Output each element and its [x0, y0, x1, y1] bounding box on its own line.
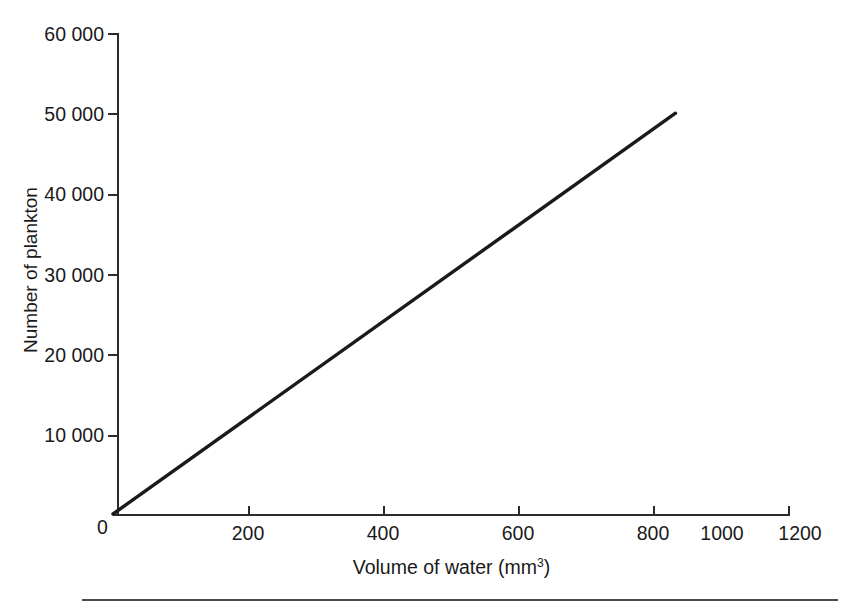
x-tick-mark-600 — [518, 506, 520, 515]
y-tick-mark-30000 — [108, 274, 117, 276]
x-tick-mark-400 — [383, 506, 385, 515]
x-tick-mark-200 — [248, 506, 250, 515]
y-tick-label-40000: 40 000 — [18, 184, 104, 204]
y-tick-label-60000: 60 000 — [18, 24, 104, 44]
y-tick-mark-40000 — [108, 194, 117, 196]
x-axis-line — [113, 514, 790, 516]
x-tick-label-1000: 1000 — [677, 522, 767, 544]
x-axis-title: Volume of water (mm3) — [113, 556, 790, 579]
y-tick-mark-20000 — [108, 354, 117, 356]
y-tick-mark-50000 — [108, 113, 117, 115]
bottom-divider-rule — [82, 599, 838, 601]
y-tick-label-20000: 20 000 — [18, 345, 104, 365]
y-tick-mark-60000 — [108, 33, 117, 35]
x-axis-title-base: Volume of water (mm — [353, 556, 537, 578]
y-axis-tick-labels: 60 000 50 000 40 000 30 000 20 000 10 00… — [14, 0, 104, 615]
x-axis-title-close: ) — [544, 556, 551, 578]
y-tick-mark-10000 — [108, 435, 117, 437]
y-tick-label-50000: 50 000 — [18, 104, 104, 124]
x-axis-title-superscript: 3 — [537, 556, 544, 570]
x-tick-mark-1200 — [788, 506, 790, 515]
x-tick-label-200: 200 — [203, 522, 293, 544]
y-tick-label-10000: 10 000 — [18, 425, 104, 445]
plankton-volume-line-chart: Number of plankton 60 000 50 000 40 000 … — [0, 0, 860, 615]
x-tick-label-400: 400 — [338, 522, 428, 544]
y-axis-line — [117, 33, 119, 516]
x-tick-label-0: 0 — [97, 516, 108, 538]
x-tick-label-600: 600 — [473, 522, 563, 544]
x-tick-mark-800 — [653, 506, 655, 515]
data-line-plankton — [113, 113, 676, 514]
x-tick-label-1200: 1200 — [755, 522, 845, 544]
y-tick-label-30000: 30 000 — [18, 265, 104, 285]
